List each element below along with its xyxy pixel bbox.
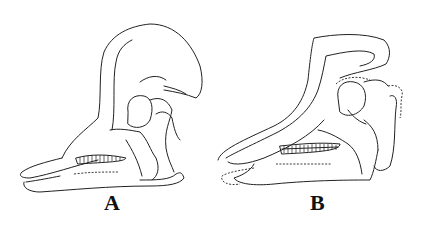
panel-b: B	[214, 0, 428, 229]
panel-label-b: B	[310, 190, 325, 216]
panel-a: A	[0, 0, 214, 229]
panel-label-a: A	[104, 190, 120, 216]
